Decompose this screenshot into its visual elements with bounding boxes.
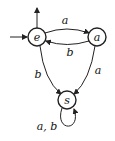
state-a: a: [88, 28, 106, 46]
edge-e-to-s: [40, 46, 61, 94]
edge-s-loop: [61, 108, 76, 126]
edge-a-to-s: [74, 46, 95, 94]
state-s: s: [58, 91, 76, 109]
edge-label-a-s: a: [95, 64, 102, 77]
automaton-diagram: e a s a b b a a, b: [0, 0, 115, 141]
edge-label-e-a: a: [62, 14, 69, 27]
edge-e-to-a: [45, 29, 89, 33]
edge-a-to-e: [46, 41, 89, 45]
state-a-label: a: [94, 31, 101, 44]
state-s-label: s: [64, 94, 70, 107]
edge-label-e-s: b: [34, 68, 41, 81]
state-e-label: e: [34, 31, 41, 44]
state-e: e: [28, 28, 46, 46]
edge-label-a-e: b: [66, 46, 73, 59]
edge-label-s-s: a, b: [37, 120, 58, 133]
